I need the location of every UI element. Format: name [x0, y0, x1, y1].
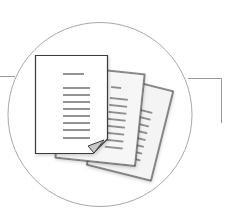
documents-graphic: [0, 0, 225, 224]
front-page: [36, 56, 108, 154]
documents-illustration: [0, 0, 225, 224]
connector-right: [188, 79, 222, 124]
